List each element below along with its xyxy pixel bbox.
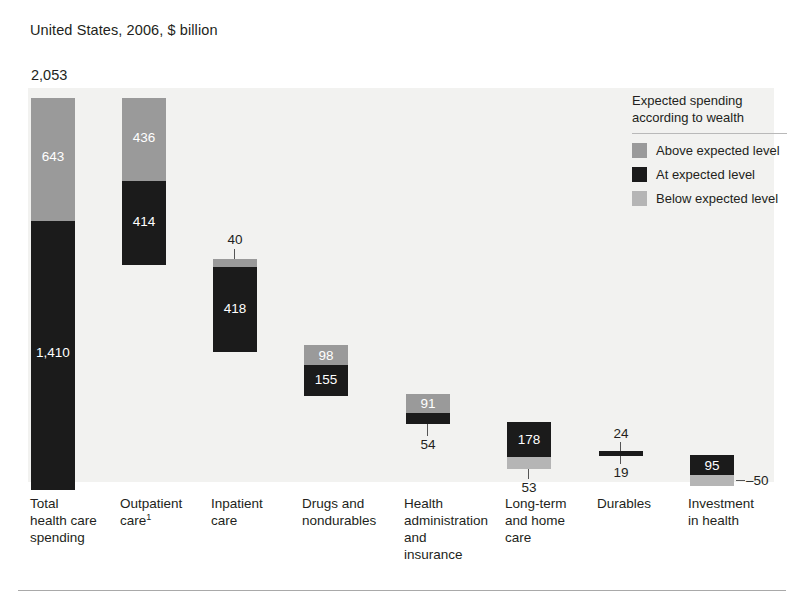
bar-segment-value-91: 91 <box>406 397 450 411</box>
bar-segment-at-long-term-and-home-care[interactable]: 178 <box>507 422 551 457</box>
legend-label-below: Below expected level <box>656 191 778 206</box>
legend-title-line-2: according to wealth <box>632 109 792 126</box>
bar-total-label-total-health-care-spending: 2,053 <box>31 68 67 83</box>
x-label-line: Investment <box>688 495 788 512</box>
page-title: United States, 2006, $ billion <box>30 22 218 38</box>
footnote-marker: 1 <box>146 512 151 522</box>
x-label-line: and <box>404 529 504 546</box>
bar-segment-value-436: 436 <box>122 131 166 145</box>
legend-label-at: At expected level <box>656 167 755 182</box>
bar-group-inpatient-care[interactable]: 40 418 <box>213 90 257 490</box>
legend-title-line-1: Expected spending <box>632 92 792 109</box>
legend-title: Expected spending according to wealth <box>632 92 792 126</box>
x-label-line: Long-term <box>505 495 605 512</box>
legend-item-above-expected-level[interactable]: Above expected level <box>632 143 792 158</box>
x-label-line: administration <box>404 512 504 529</box>
x-label-line: care <box>211 512 311 529</box>
bar-callout-above-inpatient-care: 40 <box>213 233 257 247</box>
bar-segment-value-95: 95 <box>690 459 734 473</box>
footer-divider <box>18 590 786 591</box>
bar-group-outpatient-care[interactable]: 436 414 <box>122 90 166 490</box>
bar-segment-value-643: 643 <box>31 150 75 164</box>
bar-segment-value-155: 155 <box>304 373 348 387</box>
legend-item-below-expected-level[interactable]: Below expected level <box>632 191 792 206</box>
bar-callout-below-long-term-and-home-care: 53 <box>507 481 551 495</box>
x-label-line: Durables <box>597 495 697 512</box>
leader-line-investment-below <box>736 480 745 481</box>
bar-segment-above-total-health-care-spending[interactable]: 643 <box>31 98 75 221</box>
x-label-line-with-footnote: care1 <box>120 512 220 529</box>
x-label-drugs-and-nondurables: Drugs and nondurables <box>302 495 402 529</box>
leader-line-inpatient-care-above <box>234 249 235 259</box>
bar-segment-below-investment-in-health[interactable] <box>690 475 734 486</box>
bar-callout-at-health-administration: 54 <box>406 438 450 452</box>
x-label-line: and home <box>505 512 605 529</box>
x-label-line: care <box>505 529 605 546</box>
bar-segment-above-inpatient-care[interactable] <box>213 259 257 267</box>
x-label-line: Outpatient <box>120 495 220 512</box>
bar-segment-below-long-term-and-home-care[interactable] <box>507 457 551 469</box>
x-label-line: insurance <box>404 546 504 563</box>
x-label-line: health care <box>30 512 130 529</box>
bar-group-drugs-and-nondurables[interactable]: 98 155 <box>304 90 348 490</box>
bar-segment-at-health-administration[interactable] <box>406 413 450 424</box>
x-label-line: Health <box>404 495 504 512</box>
legend-item-at-expected-level[interactable]: At expected level <box>632 167 792 182</box>
bar-segment-value-414: 414 <box>122 215 166 229</box>
bar-group-total-health-care-spending[interactable]: 2,053 643 1,410 <box>31 90 75 490</box>
leader-line-health-administration-at <box>427 424 428 436</box>
legend-divider <box>632 133 787 134</box>
bar-segment-at-investment-in-health[interactable]: 95 <box>690 455 734 475</box>
bar-segment-value-1410: 1,410 <box>31 346 75 360</box>
bar-segment-value-418: 418 <box>213 302 257 316</box>
x-label-total-health-care-spending: Total health care spending <box>30 495 130 546</box>
x-label-long-term-and-home-care: Long-term and home care <box>505 495 605 546</box>
x-label-line: Total <box>30 495 130 512</box>
bar-segment-at-durables[interactable] <box>599 451 643 456</box>
legend-swatch-icon-below <box>632 191 647 206</box>
x-label-outpatient-care: Outpatient care1 <box>120 495 220 529</box>
legend-label-above: Above expected level <box>656 143 780 158</box>
bar-segment-value-178: 178 <box>507 433 551 447</box>
x-label-durables: Durables <box>597 495 697 512</box>
bar-group-long-term-and-home-care[interactable]: 178 53 <box>507 90 551 490</box>
x-label-line: nondurables <box>302 512 402 529</box>
bar-segment-above-drugs-and-nondurables[interactable]: 98 <box>304 345 348 365</box>
leader-line-long-term-below <box>528 469 529 479</box>
chart-legend: Expected spending according to wealth Ab… <box>632 92 792 215</box>
bar-segment-at-total-health-care-spending[interactable]: 1,410 <box>31 221 75 490</box>
bar-group-health-administration-and-insurance[interactable]: 91 54 <box>406 90 450 490</box>
bar-segment-at-drugs-and-nondurables[interactable]: 155 <box>304 365 348 396</box>
leader-line-durables-at <box>620 456 621 464</box>
bar-segment-above-outpatient-care[interactable]: 436 <box>122 98 166 181</box>
bar-callout-at-durables: 19 <box>599 466 643 480</box>
x-label-line: care <box>120 513 146 528</box>
x-label-investment-in-health: Investment in health <box>688 495 788 529</box>
legend-swatch-icon-at <box>632 167 647 182</box>
x-label-inpatient-care: Inpatient care <box>211 495 311 529</box>
bar-callout-above-durables: 24 <box>599 427 643 441</box>
bar-callout-below-investment-in-health: –50 <box>746 474 786 488</box>
x-label-health-administration-and-insurance: Health administration and insurance <box>404 495 504 563</box>
x-label-line: in health <box>688 512 788 529</box>
bar-segment-at-inpatient-care[interactable]: 418 <box>213 267 257 352</box>
x-label-line: spending <box>30 529 130 546</box>
x-axis-labels: Total health care spending Outpatient ca… <box>0 495 802 590</box>
leader-line-durables-above <box>620 442 621 451</box>
bar-segment-value-98: 98 <box>304 349 348 363</box>
legend-swatch-icon-above <box>632 143 647 158</box>
x-label-line: Inpatient <box>211 495 311 512</box>
bar-segment-above-health-administration[interactable]: 91 <box>406 394 450 413</box>
bar-segment-at-outpatient-care[interactable]: 414 <box>122 181 166 265</box>
x-label-line: Drugs and <box>302 495 402 512</box>
